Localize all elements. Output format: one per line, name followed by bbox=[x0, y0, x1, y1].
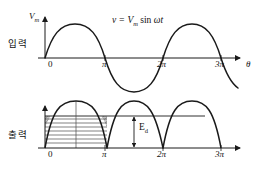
output-side-label: 출력 bbox=[8, 130, 27, 140]
input-tick-label-pi: π bbox=[102, 60, 107, 69]
y-axis-subscript: m bbox=[35, 16, 40, 23]
rectifier-waveform-figure: v = Vm sin ωt 입력 Vm 0 π 2π 3π θ 출력 Ed 0 … bbox=[0, 0, 264, 172]
input-tick-label-3pi: 3π bbox=[215, 60, 224, 69]
input-tick-label-2pi: 2π bbox=[157, 60, 166, 69]
input-panel bbox=[38, 17, 240, 92]
output-tick-label-pi: π bbox=[102, 150, 107, 159]
input-y-axis-label: Vm bbox=[29, 12, 39, 23]
equation-sin: sin bbox=[138, 15, 154, 25]
output-origin-label: 0 bbox=[48, 150, 53, 159]
ed-label: Ed bbox=[139, 123, 148, 134]
equation-omega-t: ωt bbox=[154, 15, 163, 25]
output-tick-label-3pi: 3π bbox=[215, 150, 224, 159]
output-tick-label-2pi: 2π bbox=[157, 150, 166, 159]
ed-subscript: d bbox=[145, 127, 148, 134]
input-side-label: 입력 bbox=[8, 39, 27, 49]
input-equation: v = Vm sin ωt bbox=[112, 16, 163, 27]
input-origin-label: 0 bbox=[48, 60, 53, 69]
equation-lhs: v = V bbox=[112, 15, 133, 25]
input-x-axis-label: θ bbox=[246, 60, 250, 69]
